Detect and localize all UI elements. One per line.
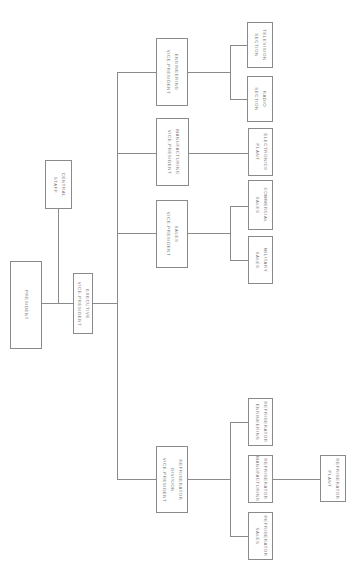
node-radio-section: RADIOSECTION xyxy=(247,76,273,122)
connector-central-staff xyxy=(58,209,59,303)
connector-president-exec xyxy=(42,303,73,304)
label: ENGINEERING xyxy=(253,402,261,443)
connector-eng xyxy=(117,72,156,73)
label: EXECUTIVE xyxy=(83,281,91,325)
label: RADIO xyxy=(260,87,268,110)
label: STAFF xyxy=(51,172,59,196)
label: CENTRAL xyxy=(59,172,67,196)
connector-refrig-plant xyxy=(273,479,320,480)
label: REFRIGERATOR xyxy=(261,402,269,443)
label: MILITARY xyxy=(261,248,269,272)
node-central-staff: CENTRALSTAFF xyxy=(45,160,72,209)
node-commercial-sales: COMMERCIALSALES xyxy=(248,180,273,230)
connector-refrig-eng xyxy=(230,422,248,423)
connector-radio xyxy=(230,99,247,100)
connector-eng-out xyxy=(188,72,230,73)
node-manufacturing-vp: MANUFACTURINGVICE-PRESIDENT xyxy=(156,118,189,186)
label: MANUFACTURING xyxy=(173,129,181,174)
connector-main-bus xyxy=(117,72,118,479)
node-president: PRESIDENT xyxy=(10,261,42,349)
node-electronics-plant: ELECTRONICSPLANT xyxy=(248,128,273,176)
label: SECTION xyxy=(252,29,260,60)
connector-eng-bus xyxy=(230,45,231,99)
node-sales-vp: SALESVICE-PRESIDENT xyxy=(156,200,188,268)
node-military-sales: MILITARYSALES xyxy=(248,236,273,284)
label: REFRIGERATOR xyxy=(261,456,269,501)
label: REFRIGERATOR xyxy=(333,458,341,499)
node-television-section: TELEVISIONSECTION xyxy=(247,22,273,68)
connector-refrig-sales xyxy=(230,536,248,537)
label: ELECTRONICS xyxy=(261,133,269,170)
node-exec-vp: EXECUTIVEVICE-PRESIDENT xyxy=(73,273,93,334)
connector-mfg-out xyxy=(189,153,248,154)
node-refrigerator-sales: REFRIGERATORSALES xyxy=(248,512,273,560)
connector-mfg xyxy=(117,153,156,154)
connector-refrig xyxy=(117,479,156,480)
node-refrigerator-engineering: REFRIGERATORENGINEERING xyxy=(248,398,273,446)
label: ENGINEERING xyxy=(172,50,180,94)
connector-refrig-bus xyxy=(230,422,231,536)
label: MANUFACTURING xyxy=(253,456,261,501)
node-refrigerator-manufacturing: REFRIGERATORMANUFACTURING xyxy=(248,455,273,503)
label: DIVISION xyxy=(168,457,176,501)
label: SALES xyxy=(253,516,261,557)
connector-military xyxy=(230,260,248,261)
label: PRESIDENT xyxy=(22,290,30,320)
label: SALES xyxy=(253,187,261,222)
connector-sales xyxy=(117,233,156,234)
label: SALES xyxy=(172,212,180,256)
connector-sales-bus xyxy=(230,206,231,260)
label: PLANT xyxy=(325,458,333,499)
connector-commercial xyxy=(230,206,248,207)
connector-exec-bus xyxy=(93,303,117,304)
connector-refrig-out xyxy=(188,479,230,480)
node-refrigerator-plant: REFRIGERATORPLANT xyxy=(320,455,346,502)
connector-sales-out xyxy=(188,233,230,234)
label: SECTION xyxy=(252,87,260,110)
label: VICE-PRESIDENT xyxy=(160,457,168,501)
label: TELEVISION xyxy=(260,29,268,60)
connector-tv xyxy=(230,45,247,46)
label: PLANT xyxy=(253,133,261,170)
node-engineering-vp: ENGINEERINGVICE-PRESIDENT xyxy=(156,38,188,106)
label: VICE-PRESIDENT xyxy=(75,281,83,325)
label: VICE-PRESIDENT xyxy=(165,129,173,174)
node-refrigerator-division-vp: REFRIGERATORDIVISIONVICE-PRESIDENT xyxy=(156,446,188,513)
label: VICE-PRESIDENT xyxy=(164,212,172,256)
label: VICE-PRESIDENT xyxy=(164,50,172,94)
label: REFRIGERATOR xyxy=(176,457,184,501)
label: REFRIGERATOR xyxy=(261,516,269,557)
label: SALES xyxy=(253,248,261,272)
label: COMMERCIAL xyxy=(261,187,269,222)
